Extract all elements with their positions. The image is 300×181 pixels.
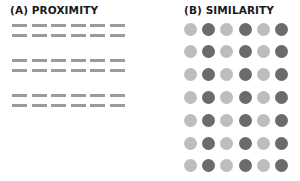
dash-mark xyxy=(32,59,47,62)
light-circle xyxy=(257,68,270,81)
dash-mark xyxy=(110,59,125,62)
light-circle xyxy=(184,91,197,104)
dark-circle xyxy=(275,45,288,58)
dash-mark xyxy=(110,104,125,107)
dark-circle xyxy=(239,137,252,150)
light-circle xyxy=(220,137,233,150)
light-circle xyxy=(257,114,270,127)
dark-circle xyxy=(275,114,288,127)
dark-circle xyxy=(202,68,215,81)
light-circle xyxy=(220,91,233,104)
dash-mark xyxy=(90,69,105,72)
panel-title-similarity: (B) SIMILARITY xyxy=(184,4,274,16)
light-circle xyxy=(184,68,197,81)
dark-circle xyxy=(239,45,252,58)
dash-mark xyxy=(12,24,27,27)
dash-mark xyxy=(12,59,27,62)
light-circle xyxy=(220,159,233,172)
dash-mark xyxy=(71,59,86,62)
light-circle xyxy=(220,23,233,36)
dark-circle xyxy=(275,159,288,172)
dash-mark xyxy=(90,59,105,62)
dash-mark xyxy=(12,69,27,72)
dark-circle xyxy=(202,114,215,127)
dash-mark xyxy=(32,104,47,107)
light-circle xyxy=(184,159,197,172)
dash-mark xyxy=(71,104,86,107)
light-circle xyxy=(220,68,233,81)
dash-mark xyxy=(71,24,86,27)
dash-mark xyxy=(32,94,47,97)
light-circle xyxy=(184,137,197,150)
dark-circle xyxy=(239,68,252,81)
dark-circle xyxy=(202,45,215,58)
dark-circle xyxy=(239,114,252,127)
light-circle xyxy=(184,45,197,58)
dark-circle xyxy=(275,137,288,150)
dash-mark xyxy=(71,69,86,72)
dark-circle xyxy=(275,23,288,36)
dash-mark xyxy=(90,94,105,97)
light-circle xyxy=(184,114,197,127)
dash-mark xyxy=(51,24,66,27)
dark-circle xyxy=(275,91,288,104)
dash-mark xyxy=(12,104,27,107)
light-circle xyxy=(257,45,270,58)
panel-title-proximity: (A) PROXIMITY xyxy=(10,4,98,16)
dash-mark xyxy=(12,34,27,37)
dash-mark xyxy=(32,34,47,37)
dash-mark xyxy=(51,94,66,97)
light-circle xyxy=(257,159,270,172)
dash-mark xyxy=(90,34,105,37)
dash-mark xyxy=(32,69,47,72)
dash-mark xyxy=(71,34,86,37)
dark-circle xyxy=(202,159,215,172)
light-circle xyxy=(220,114,233,127)
dash-mark xyxy=(90,24,105,27)
light-circle xyxy=(257,137,270,150)
dash-mark xyxy=(51,69,66,72)
dash-mark xyxy=(51,104,66,107)
dash-mark xyxy=(110,94,125,97)
dash-mark xyxy=(51,59,66,62)
dark-circle xyxy=(239,91,252,104)
dark-circle xyxy=(202,23,215,36)
dark-circle xyxy=(275,68,288,81)
dash-mark xyxy=(71,94,86,97)
dash-mark xyxy=(32,24,47,27)
dash-mark xyxy=(90,104,105,107)
light-circle xyxy=(257,23,270,36)
dash-mark xyxy=(110,69,125,72)
dark-circle xyxy=(202,91,215,104)
dash-mark xyxy=(110,34,125,37)
light-circle xyxy=(220,45,233,58)
dark-circle xyxy=(239,23,252,36)
dark-circle xyxy=(239,159,252,172)
dash-mark xyxy=(110,24,125,27)
light-circle xyxy=(257,91,270,104)
light-circle xyxy=(184,23,197,36)
dark-circle xyxy=(202,137,215,150)
dash-mark xyxy=(51,34,66,37)
dash-mark xyxy=(12,94,27,97)
